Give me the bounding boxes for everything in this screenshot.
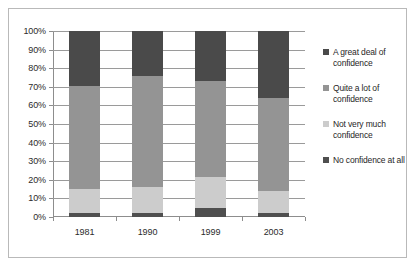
- bar-segment: [258, 98, 289, 191]
- stacked-bar: [258, 31, 289, 217]
- legend-swatch-icon: [323, 157, 329, 163]
- y-axis-tick: [49, 143, 53, 144]
- bar-segment: [69, 86, 100, 189]
- legend-item[interactable]: No confidence at all: [323, 155, 405, 166]
- x-axis-label-1990: 1990: [138, 227, 158, 237]
- y-axis-label: 40%: [28, 138, 46, 148]
- legend-swatch-icon: [323, 85, 329, 91]
- legend-swatch-icon: [323, 49, 329, 55]
- legend-label: A great deal of confidence: [333, 47, 405, 68]
- y-axis-label: 20%: [28, 175, 46, 185]
- x-axis-label-1981: 1981: [75, 227, 95, 237]
- bar-segment: [195, 81, 226, 177]
- bar-segment: [258, 191, 289, 213]
- legend-label: No confidence at all: [333, 155, 405, 166]
- plot-area: 0%10%20%30%40%50%60%70%80%90%100% 198119…: [53, 31, 305, 217]
- legend-item[interactable]: A great deal of confidence: [323, 47, 405, 68]
- bar-segment: [132, 187, 163, 213]
- y-axis-tick: [49, 161, 53, 162]
- bar-segment: [195, 208, 226, 217]
- bar-segment: [132, 76, 163, 188]
- bar-group-2003: [258, 31, 289, 217]
- y-axis-label: 80%: [28, 63, 46, 73]
- y-axis-label: 90%: [28, 45, 46, 55]
- stacked-bar: [69, 31, 100, 217]
- x-axis-tick: [53, 217, 54, 221]
- bar-segment: [69, 31, 100, 86]
- y-axis-tick: [49, 180, 53, 181]
- y-axis-tick: [49, 50, 53, 51]
- y-axis-tick: [49, 198, 53, 199]
- bar-group-1981: [69, 31, 100, 217]
- legend-item[interactable]: Not very much confidence: [323, 119, 405, 140]
- bar-segment: [69, 189, 100, 213]
- legend-item[interactable]: Quite a lot of confidence: [323, 83, 405, 104]
- bar-segment: [195, 31, 226, 81]
- y-axis-label: 10%: [28, 193, 46, 203]
- bar-segment: [69, 213, 100, 217]
- x-axis-tick: [242, 217, 243, 221]
- chart-container: 0%10%20%30%40%50%60%70%80%90%100% 198119…: [8, 8, 407, 258]
- legend-label: Not very much confidence: [333, 119, 405, 140]
- bar-segment: [258, 31, 289, 98]
- chart-legend: A great deal of confidenceQuite a lot of…: [323, 47, 405, 181]
- x-axis-label-1999: 1999: [201, 227, 221, 237]
- legend-label: Quite a lot of confidence: [333, 83, 405, 104]
- y-axis-label: 0%: [33, 212, 46, 222]
- y-axis-label: 60%: [28, 100, 46, 110]
- y-axis-label: 30%: [28, 156, 46, 166]
- bar-segment: [258, 213, 289, 217]
- legend-swatch-icon: [323, 121, 329, 127]
- y-axis-label: 70%: [28, 82, 46, 92]
- y-axis-tick: [49, 124, 53, 125]
- x-axis-label-2003: 2003: [264, 227, 284, 237]
- y-axis-tick: [49, 31, 53, 32]
- bar-segment: [195, 177, 226, 208]
- y-axis-tick: [49, 105, 53, 106]
- x-axis-tick: [179, 217, 180, 221]
- bar-segment: [132, 31, 163, 76]
- stacked-bar: [132, 31, 163, 217]
- y-axis-tick: [49, 68, 53, 69]
- x-axis-tick: [116, 217, 117, 221]
- y-axis-label: 50%: [28, 119, 46, 129]
- bar-group-1990: [132, 31, 163, 217]
- x-axis-tick: [305, 217, 306, 221]
- bar-segment: [132, 213, 163, 217]
- bar-group-1999: [195, 31, 226, 217]
- y-axis-label: 100%: [23, 26, 46, 36]
- stacked-bar: [195, 31, 226, 217]
- y-axis-tick: [49, 87, 53, 88]
